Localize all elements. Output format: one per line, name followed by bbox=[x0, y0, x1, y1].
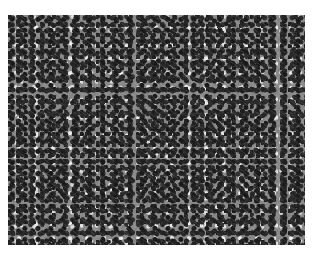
histology-micrograph bbox=[8, 15, 305, 245]
